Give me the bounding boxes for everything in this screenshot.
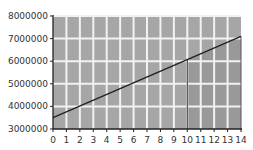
x-tick-label: 11 — [195, 135, 206, 145]
y-tick-label: 8000000 — [8, 11, 48, 21]
x-tick-label: 5 — [117, 135, 123, 145]
x-tick-label: 14 — [235, 135, 247, 145]
x-tick-label: 6 — [131, 135, 137, 145]
x-tick-label: 8 — [158, 135, 164, 145]
x-tick-label: 2 — [77, 135, 83, 145]
y-tick-label: 6000000 — [8, 56, 48, 66]
x-tick-label: 3 — [90, 135, 96, 145]
x-tick-label: 7 — [144, 135, 150, 145]
x-tick-label: 12 — [208, 135, 219, 145]
x-tick-label: 4 — [104, 135, 110, 145]
x-axis: 01234567891011121314 — [50, 129, 247, 145]
y-tick-label: 5000000 — [8, 79, 48, 89]
x-tick-label: 10 — [182, 135, 194, 145]
line-chart: 3000000400000050000006000000700000080000… — [0, 0, 253, 150]
x-tick-label: 1 — [64, 135, 70, 145]
y-tick-label: 7000000 — [8, 34, 48, 44]
y-axis: 3000000400000050000006000000700000080000… — [8, 11, 53, 134]
y-tick-label: 3000000 — [8, 124, 48, 134]
x-tick-label: 9 — [171, 135, 177, 145]
plot-area — [53, 16, 241, 129]
x-tick-label: 13 — [222, 135, 233, 145]
y-tick-label: 4000000 — [8, 101, 48, 111]
x-tick-label: 0 — [50, 135, 56, 145]
